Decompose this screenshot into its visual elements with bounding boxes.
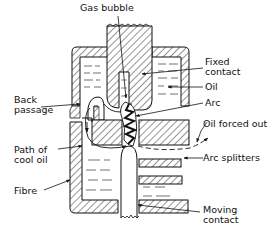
label-oil-forced-out: Oil forced out <box>203 119 267 129</box>
moving-contact <box>121 146 139 218</box>
fixed-contact <box>107 24 152 110</box>
label-arc: Arc <box>205 98 220 108</box>
label-fixed-contact-line2: contact <box>205 67 241 77</box>
label-back-passage-line2: passage <box>14 105 53 115</box>
arc <box>121 102 137 146</box>
label-oil: Oil <box>205 82 218 92</box>
label-moving-contact-line2: contact <box>203 215 239 225</box>
arc-splitters <box>139 159 182 184</box>
label-path-of-cool-oil-line2: cool oil <box>14 155 48 165</box>
label-fibre: Fibre <box>14 186 37 196</box>
label-arc-splitters: Arc splitters <box>203 153 260 163</box>
arc-chamber-diagram <box>0 0 275 232</box>
label-gas-bubble: Gas bubble <box>80 3 134 13</box>
